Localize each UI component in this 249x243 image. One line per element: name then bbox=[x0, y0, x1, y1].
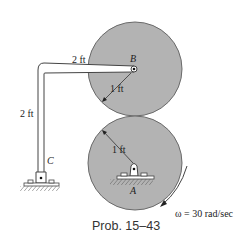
label-point-C: C bbox=[47, 155, 54, 166]
pin-B-icon bbox=[133, 68, 136, 71]
label-lower-radius: 1 ft bbox=[112, 144, 126, 155]
label-angular-velocity: ω = 30 rad/sec bbox=[175, 208, 234, 219]
mechanism-diagram: 2 ft 2 ft 1 ft 1 ft B A C ω = 30 rad/sec… bbox=[0, 0, 249, 243]
label-bar-horizontal: 2 ft bbox=[72, 54, 86, 65]
label-point-A: A bbox=[129, 185, 137, 196]
figure-caption: Prob. 15–43 bbox=[92, 219, 160, 233]
label-upper-radius: 1 ft bbox=[110, 83, 124, 94]
pin-support-C bbox=[20, 172, 60, 191]
label-bar-vertical: 2 ft bbox=[20, 108, 34, 119]
label-point-B: B bbox=[130, 53, 136, 64]
